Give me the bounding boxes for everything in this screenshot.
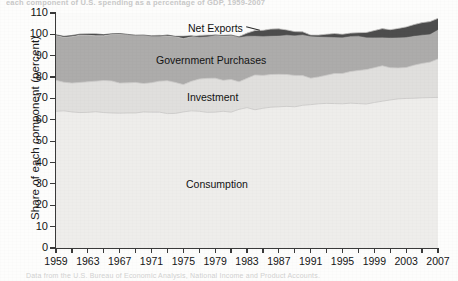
- scan-artifact-top-text: each component of U.S. spending as a per…: [6, 0, 458, 7]
- x-tick-1995: [342, 248, 343, 253]
- series-label-consumption: Consumption: [186, 178, 248, 190]
- x-tick-1997: [358, 248, 359, 253]
- y-tick-10: [50, 226, 55, 227]
- y-tick-30: [50, 183, 55, 184]
- series-label-net-exports-text: Net Exports: [188, 22, 243, 34]
- x-tick-2001: [390, 248, 391, 253]
- x-tick-1981: [230, 248, 231, 253]
- y-tick-label-30: 30: [8, 177, 48, 189]
- series-label-government-purchases: Government Purchases: [156, 54, 266, 66]
- x-tick-1975: [183, 248, 184, 253]
- y-tick-label-80: 80: [8, 70, 48, 82]
- y-tick-50: [50, 141, 55, 142]
- x-tick-1963: [87, 248, 88, 253]
- y-tick-90: [50, 55, 55, 56]
- y-tick-label-70: 70: [8, 91, 48, 103]
- y-tick-60: [50, 119, 55, 120]
- x-tick-1989: [294, 248, 295, 253]
- x-tick-1965: [103, 248, 104, 253]
- y-tick-label-90: 90: [8, 49, 48, 61]
- x-tick-1977: [199, 248, 200, 253]
- y-tick-0: [50, 247, 55, 248]
- y-tick-label-10: 10: [8, 220, 48, 232]
- figure-container: each component of U.S. spending as a per…: [0, 0, 458, 281]
- x-tick-1967: [119, 248, 120, 253]
- x-tick-1991: [310, 248, 311, 253]
- x-tick-1987: [278, 248, 279, 253]
- x-tick-1969: [135, 248, 136, 253]
- x-tick-1959: [55, 248, 56, 253]
- series-label-net-exports: Net Exports: [188, 22, 260, 34]
- y-tick-label-110: 110: [8, 6, 48, 18]
- y-tick-label-40: 40: [8, 156, 48, 168]
- y-tick-label-100: 100: [8, 27, 48, 39]
- stacked-area-svg: [56, 13, 438, 248]
- x-tick-1973: [167, 248, 168, 253]
- y-tick-110: [50, 12, 55, 13]
- y-tick-label-0: 0: [8, 241, 48, 253]
- x-tick-1985: [262, 248, 263, 253]
- y-tick-label-50: 50: [8, 134, 48, 146]
- area-band-consumption: [56, 97, 438, 248]
- y-tick-40: [50, 162, 55, 163]
- x-tick-1961: [71, 248, 72, 253]
- y-tick-label-20: 20: [8, 198, 48, 210]
- x-tick-1983: [246, 248, 247, 253]
- y-tick-label-60: 60: [8, 113, 48, 125]
- y-tick-20: [50, 205, 55, 206]
- x-tick-label-2007: 2007: [418, 255, 458, 267]
- y-tick-100: [50, 34, 55, 35]
- y-axis-line: [55, 12, 56, 249]
- x-tick-2005: [421, 248, 422, 253]
- y-tick-70: [50, 98, 55, 99]
- y-tick-80: [50, 76, 55, 77]
- x-tick-1971: [151, 248, 152, 253]
- leader-line-icon: [246, 26, 260, 30]
- x-tick-2007: [437, 248, 438, 253]
- scan-artifact-bottom-text: Data from the U.S. Bureau of Economic An…: [26, 272, 458, 281]
- x-tick-2003: [406, 248, 407, 253]
- x-tick-1979: [215, 248, 216, 253]
- x-tick-1993: [326, 248, 327, 253]
- x-tick-1999: [374, 248, 375, 253]
- series-label-investment: Investment: [187, 91, 238, 103]
- plot-area: [56, 13, 438, 248]
